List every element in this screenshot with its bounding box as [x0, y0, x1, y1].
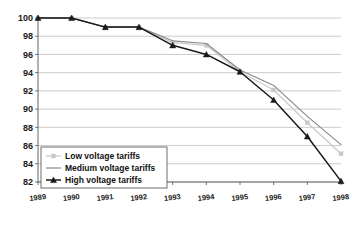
y-tick-label: 98: [23, 31, 33, 41]
y-tick-label: 96: [23, 50, 33, 60]
x-tick-label: 1992: [130, 192, 148, 203]
data-point-marker: [339, 152, 343, 156]
x-tick-label: 1995: [231, 192, 249, 203]
series-1: [36, 16, 343, 156]
line-chart: 100989694929088868482 198919901991199219…: [0, 0, 360, 227]
y-tick-label: 82: [23, 177, 33, 187]
x-axis-tick-labels: 1989199019911992199319941995199619971998: [29, 192, 350, 203]
x-tick-label: 1993: [164, 192, 182, 203]
series-line: [38, 18, 341, 145]
y-tick-label: 92: [23, 86, 33, 96]
series-line: [38, 18, 341, 154]
legend-item-label: Medium voltage tariffs: [65, 163, 155, 173]
legend-item-label: High voltage tariffs: [65, 175, 142, 185]
data-point-marker: [272, 88, 276, 92]
x-tick-label: 1991: [96, 192, 114, 203]
chart-canvas: 100989694929088868482 198919901991199219…: [0, 0, 360, 227]
x-tick-label: 1998: [332, 192, 350, 203]
y-tick-label: 100: [18, 13, 33, 23]
chart-legend: Low voltage tariffsMedium voltage tariff…: [41, 147, 167, 188]
data-point-marker: [305, 121, 309, 125]
x-tick-label: 1990: [63, 192, 81, 203]
x-tick-label: 1997: [298, 192, 316, 203]
y-axis-tick-labels: 100989694929088868482: [18, 13, 38, 187]
y-tick-label: 84: [23, 159, 33, 169]
y-tick-label: 88: [23, 123, 33, 133]
data-point-marker: [52, 154, 56, 158]
y-tick-label: 90: [23, 104, 33, 114]
series-2: [38, 18, 341, 145]
y-tick-label: 94: [23, 68, 33, 78]
x-tick-label: 1996: [265, 192, 283, 203]
y-tick-label: 86: [23, 141, 33, 151]
x-tick-label: 1989: [29, 192, 47, 203]
x-tick-label: 1994: [197, 192, 215, 203]
legend-item-label: Low voltage tariffs: [65, 151, 140, 161]
